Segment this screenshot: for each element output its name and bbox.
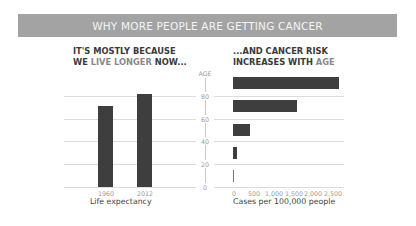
left-x-axis-caption: Life expectancy [90, 197, 152, 206]
left-subtitle-line1: IT'S MOSTLY BECAUSE [73, 46, 187, 57]
age-tick-60: 60 [201, 116, 209, 123]
bar-cancer-age-40-59 [233, 124, 250, 136]
age-tick-20: 20 [201, 161, 209, 168]
gridline-left-80 [64, 96, 196, 97]
x-tick-2000: 2,000 [304, 190, 322, 197]
right-subtitle: ...AND CANCER RISK INCREASES WITH AGE [233, 46, 335, 68]
x-tick-1500: 1,500 [285, 190, 303, 197]
age-axis-line [205, 168, 206, 183]
gridline-left-0 [64, 187, 196, 188]
age-axis-label: AGE [198, 70, 211, 77]
gridline-right-80 [214, 96, 344, 97]
gridline-right-20 [214, 164, 344, 165]
x-tick-1000: 1,000 [265, 190, 283, 197]
age-tick-40: 40 [201, 138, 209, 145]
right-subtitle-line2: INCREASES WITH AGE [233, 57, 335, 68]
right-x-axis-caption: Cases per 100,000 people [233, 197, 335, 206]
age-tick-0: 0 [203, 184, 207, 191]
bar-cancer-age-20-39 [233, 147, 237, 159]
x-tick-500: 500 [248, 190, 260, 197]
left-subtitle-line2: WE LIVE LONGER NOW... [73, 57, 187, 68]
age-axis-line [205, 123, 206, 137]
age-axis-line [205, 145, 206, 160]
gridline-left-20 [64, 164, 196, 165]
bar-cancer-age-0-19 [233, 170, 234, 182]
x-tick-0: 0 [232, 190, 236, 197]
bar-cancer-age-60-79 [233, 100, 297, 112]
bar-life-expectancy-2012 [137, 94, 152, 187]
gridline-right-0 [214, 187, 344, 188]
x-label-2012: 2012 [137, 190, 153, 197]
x-tick-2500: 2,500 [324, 190, 342, 197]
left-subtitle-highlight: LIVE LONGER [91, 57, 152, 67]
x-label-1960: 1960 [98, 190, 114, 197]
gridline-right-40 [214, 141, 344, 142]
left-subtitle: IT'S MOSTLY BECAUSE WE LIVE LONGER NOW..… [73, 46, 187, 68]
right-subtitle-line1: ...AND CANCER RISK [233, 46, 335, 57]
age-tick-80: 80 [201, 93, 209, 100]
gridline-left-60 [64, 119, 196, 120]
age-axis-line [205, 78, 206, 92]
right-subtitle-highlight: AGE [316, 57, 335, 67]
age-axis-line [205, 100, 206, 115]
bar-cancer-age-80-plus [233, 77, 339, 89]
chart-header: WHY MORE PEOPLE ARE GETTING CANCER [18, 14, 397, 37]
gridline-left-40 [64, 141, 196, 142]
bar-life-expectancy-1960 [98, 106, 113, 187]
gridline-right-60 [214, 119, 344, 120]
header-title: WHY MORE PEOPLE ARE GETTING CANCER [92, 20, 323, 32]
